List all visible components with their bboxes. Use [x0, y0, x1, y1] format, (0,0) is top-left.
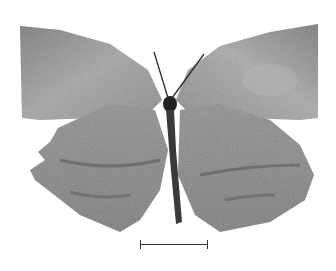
butterfly-illustration [0, 0, 336, 271]
scale-bar [140, 244, 208, 245]
left-hindwing [30, 104, 168, 232]
right-forewing [176, 24, 318, 120]
butterfly-photo [0, 0, 336, 271]
right-hindwing [178, 104, 314, 232]
left-forewing [20, 26, 162, 120]
